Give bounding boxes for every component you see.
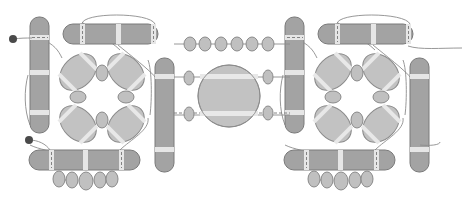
bead — [184, 37, 196, 51]
bead — [199, 37, 211, 51]
bead — [262, 37, 274, 51]
center-connector — [174, 37, 290, 127]
bead — [246, 37, 258, 51]
bead — [231, 37, 243, 51]
bead — [263, 70, 273, 84]
bead — [263, 106, 273, 120]
bead — [215, 37, 227, 51]
diagram-canvas — [0, 0, 471, 200]
bead — [184, 107, 194, 121]
right-module — [280, 15, 429, 190]
bead — [184, 71, 194, 85]
terminal-dot-top — [9, 35, 32, 43]
left-module — [25, 15, 174, 190]
